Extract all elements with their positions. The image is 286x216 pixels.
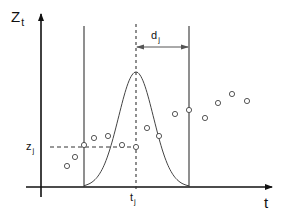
data-point <box>186 107 191 112</box>
data-point <box>72 154 77 159</box>
d-j-label: dj <box>151 30 160 43</box>
axes <box>26 14 272 197</box>
x-axis-label: t <box>264 195 268 210</box>
z-j-label: zj <box>26 141 34 154</box>
kernel-window <box>84 24 189 190</box>
data-point <box>105 133 110 138</box>
y-axis-label: Zt <box>11 9 24 27</box>
data-point <box>244 98 249 103</box>
data-point <box>91 135 96 140</box>
data-point <box>156 133 161 138</box>
data-point <box>144 125 149 130</box>
data-point <box>81 142 86 147</box>
data-point <box>119 142 124 147</box>
data-point <box>64 163 69 168</box>
data-point <box>229 91 234 96</box>
data-point <box>133 144 138 149</box>
data-point <box>172 111 177 116</box>
data-point <box>202 115 207 120</box>
kernel-window-diagram <box>0 0 286 216</box>
t-j-label: tj <box>130 192 136 205</box>
data-point <box>215 100 220 105</box>
